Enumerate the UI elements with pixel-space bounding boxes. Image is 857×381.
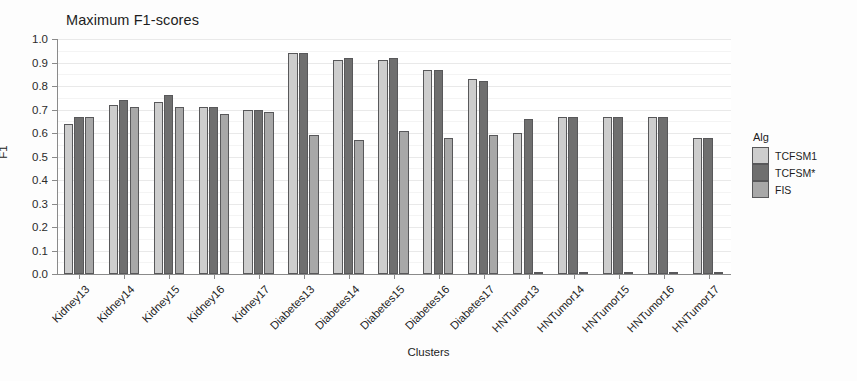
chart-container: Maximum F1-scores F1 0.00.10.20.30.40.50… bbox=[0, 0, 857, 381]
x-axis-tick-mark bbox=[439, 274, 440, 279]
y-axis-tick-mark bbox=[52, 204, 57, 205]
x-axis-tick-mark bbox=[124, 274, 125, 279]
y-axis-tick-label: 0.2 bbox=[14, 221, 48, 233]
x-axis-tick-mark bbox=[619, 274, 620, 279]
legend-item-label: TCFSM1 bbox=[775, 150, 817, 162]
y-axis-tick-label: 0.5 bbox=[14, 151, 48, 163]
y-axis-tick-label: 0.8 bbox=[14, 80, 48, 92]
legend-item-label: TCFSM* bbox=[775, 167, 815, 179]
y-axis-tick-label: 0.6 bbox=[14, 127, 48, 139]
legend-swatch bbox=[752, 181, 769, 198]
legend-title: Alg bbox=[753, 131, 817, 143]
x-axis-tick-mark bbox=[709, 274, 710, 279]
y-axis-tick-label: 0.7 bbox=[14, 104, 48, 116]
y-axis-tick-mark bbox=[52, 274, 57, 275]
y-axis-tick-mark bbox=[52, 133, 57, 134]
x-axis-tick-mark bbox=[214, 274, 215, 279]
x-axis-tick-mark bbox=[574, 274, 575, 279]
legend-item-label: FIS bbox=[775, 184, 791, 196]
legend-item: TCFSM1 bbox=[752, 147, 817, 164]
x-axis-tick-mark bbox=[169, 274, 170, 279]
y-axis-ticks: 0.00.10.20.30.40.50.60.70.80.91.0 bbox=[0, 0, 857, 381]
legend-rows: TCFSM1TCFSM*FIS bbox=[752, 147, 817, 198]
legend-item: FIS bbox=[752, 181, 817, 198]
x-axis-tick-mark bbox=[529, 274, 530, 279]
legend-swatch bbox=[752, 164, 769, 181]
y-axis-tick-mark bbox=[52, 157, 57, 158]
x-axis-title: Clusters bbox=[0, 346, 857, 358]
y-axis-tick-label: 0.0 bbox=[14, 268, 48, 280]
y-axis-tick-mark bbox=[52, 86, 57, 87]
y-axis-tick-label: 0.4 bbox=[14, 174, 48, 186]
y-axis-tick-label: 0.1 bbox=[14, 245, 48, 257]
y-axis-tick-mark bbox=[52, 227, 57, 228]
x-axis-tick-mark bbox=[484, 274, 485, 279]
legend-swatch bbox=[752, 147, 769, 164]
y-axis-tick-mark bbox=[52, 63, 57, 64]
x-axis-tick-mark bbox=[79, 274, 80, 279]
y-axis-tick-mark bbox=[52, 251, 57, 252]
y-axis-tick-label: 0.9 bbox=[14, 57, 48, 69]
y-axis-tick-mark bbox=[52, 110, 57, 111]
x-axis-tick-mark bbox=[664, 274, 665, 279]
y-axis-tick-label: 1.0 bbox=[14, 33, 48, 45]
x-axis-tick-mark bbox=[259, 274, 260, 279]
y-axis-tick-mark bbox=[52, 39, 57, 40]
legend: Alg TCFSM1TCFSM*FIS bbox=[752, 131, 817, 198]
x-axis-tick-mark bbox=[394, 274, 395, 279]
x-axis-tick-mark bbox=[349, 274, 350, 279]
y-axis-tick-mark bbox=[52, 180, 57, 181]
y-axis-tick-label: 0.3 bbox=[14, 198, 48, 210]
x-axis-tick-mark bbox=[304, 274, 305, 279]
legend-item: TCFSM* bbox=[752, 164, 817, 181]
